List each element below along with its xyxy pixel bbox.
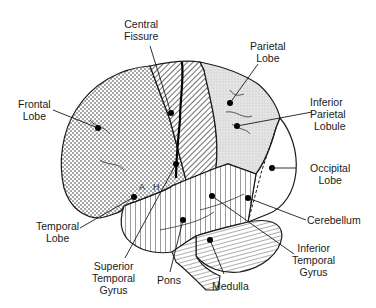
label-frontal-lobe: Frontal Lobe	[18, 98, 51, 122]
label-parietal-lobe: Parietal Lobe	[250, 40, 286, 64]
label-superior-temporal-gyrus: Superior Temporal Gyrus	[92, 260, 135, 296]
label-pons: Pons	[157, 274, 181, 286]
label-cerebellum: Cerebellum	[307, 214, 361, 226]
label-medulla: Medulla	[212, 280, 249, 292]
brain-diagram: Central Fissure Parietal Lobe Frontal Lo…	[0, 0, 376, 308]
label-occipital-lobe: Occipital Lobe	[310, 162, 350, 186]
label-central-fissure: Central Fissure	[124, 18, 158, 42]
region-letter-a: A	[139, 182, 145, 192]
label-inferior-parietal-lobule: Inferior Parietal Lobule	[310, 96, 346, 132]
label-temporal-lobe: Temporal Lobe	[36, 220, 79, 244]
region-letter-h: H	[153, 182, 160, 192]
label-inferior-temporal-gyrus: Inferior Temporal Gyrus	[292, 242, 335, 278]
